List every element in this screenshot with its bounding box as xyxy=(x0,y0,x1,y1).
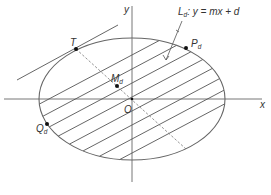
point-Pd-label: Pd xyxy=(191,38,202,50)
chord-line xyxy=(83,79,220,151)
chord-line xyxy=(39,41,159,105)
point-Qd xyxy=(45,122,49,126)
chord-line xyxy=(120,104,225,160)
chord-line xyxy=(100,90,224,156)
line-label: Ld: y = mx + d xyxy=(178,6,240,18)
chord-line xyxy=(58,60,203,137)
chord-line xyxy=(70,68,213,144)
point-O xyxy=(131,98,134,101)
ellipse-chords-diagram: y x O Ld: y = mx + d T Md Pd Qd xyxy=(0,0,271,195)
tangent-line xyxy=(17,25,118,80)
chord-line xyxy=(49,52,191,127)
point-T-label: T xyxy=(70,37,77,48)
chord-line xyxy=(43,45,177,116)
x-axis-label: x xyxy=(259,99,266,110)
y-axis-label: y xyxy=(123,4,130,15)
label-pointer-arrow xyxy=(163,21,182,60)
point-Pd xyxy=(184,46,188,50)
origin-label: O xyxy=(124,104,132,115)
